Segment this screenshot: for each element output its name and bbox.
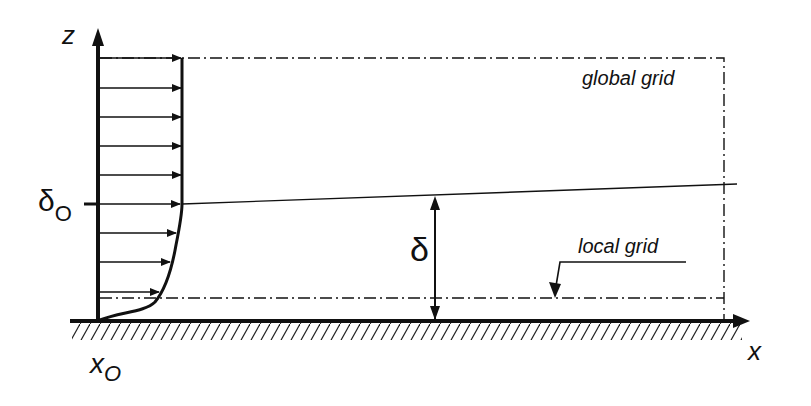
- diagram-drawing: [0, 0, 811, 406]
- z-axis-label: z: [62, 22, 75, 48]
- velocity-profile-curve: [100, 58, 182, 320]
- delta0-main: δ: [38, 184, 55, 217]
- diagram-canvas: z x xO δO δ global grid local grid: [0, 0, 811, 406]
- ground-hatching: [72, 323, 742, 340]
- x0-main: x: [90, 348, 104, 379]
- delta0-subscript: O: [55, 201, 72, 226]
- x-axis-label: x: [748, 338, 761, 364]
- boundary-layer-edge: [182, 184, 737, 204]
- local-grid-leader-arrowhead-icon: [549, 282, 561, 298]
- x0-label: xO: [90, 350, 121, 378]
- delta-arrow-down-icon: [430, 306, 440, 320]
- local-grid-leader: [555, 262, 686, 292]
- global-grid-label: global grid: [582, 68, 674, 88]
- delta-arrow-up-icon: [430, 196, 440, 210]
- z-axis-arrowhead-icon: [92, 28, 104, 46]
- velocity-arrows: [100, 58, 181, 292]
- delta0-label: δO: [38, 186, 72, 216]
- local-grid-label: local grid: [578, 236, 658, 256]
- x0-subscript: O: [104, 361, 121, 386]
- delta-label: δ: [410, 232, 429, 266]
- global-grid-boundary: [100, 58, 724, 321]
